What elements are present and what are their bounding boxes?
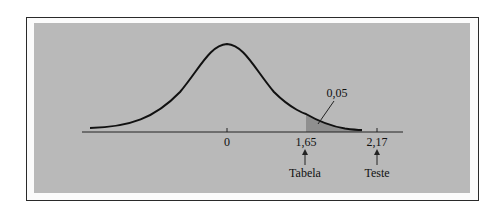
area-label: 0,05 (327, 86, 348, 101)
normal-curve-chart (0, 0, 502, 212)
area-leader-line (318, 101, 334, 124)
arrow-up-icon (302, 149, 308, 165)
tick-label-0: 0 (224, 135, 230, 150)
teste-label: Teste (364, 166, 389, 181)
bell-curve (90, 44, 362, 130)
arrow-up-icon (374, 149, 380, 165)
tick-label-2-17: 2,17 (367, 135, 388, 150)
tick-label-1-65: 1,65 (296, 135, 317, 150)
tabela-label: Tabela (289, 166, 321, 181)
